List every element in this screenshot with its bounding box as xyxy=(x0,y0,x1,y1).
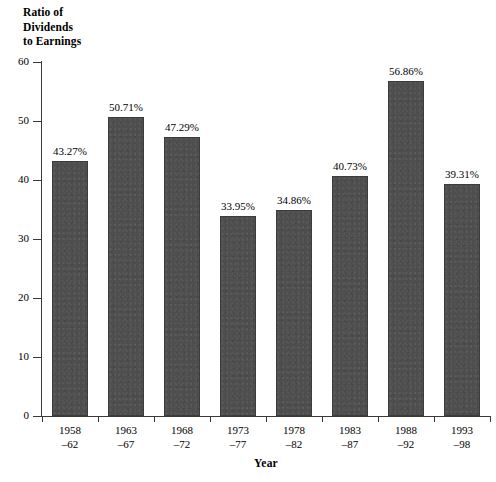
x-axis-tick xyxy=(378,417,379,422)
x-axis-category-line-2: –98 xyxy=(432,438,492,452)
bar-value-label: 34.86% xyxy=(264,195,324,206)
x-axis-category-line-1: 1963 xyxy=(96,424,156,438)
bar xyxy=(444,184,480,416)
bar xyxy=(276,210,312,416)
x-axis-category-line-1: 1988 xyxy=(376,424,436,438)
x-axis-category-line-1: 1968 xyxy=(152,424,212,438)
bar xyxy=(108,117,144,416)
x-axis-category-line-1: 1973 xyxy=(208,424,268,438)
bar-value-label: 39.31% xyxy=(432,169,492,180)
x-axis-tick xyxy=(434,417,435,422)
y-axis-tick xyxy=(33,180,41,181)
y-axis-tick-label: 20 xyxy=(18,292,29,303)
bar-value-label: 56.86% xyxy=(376,66,436,77)
x-axis-category-label: 1983–87 xyxy=(320,424,380,451)
x-axis-category-label: 1988–92 xyxy=(376,424,436,451)
x-axis-tick xyxy=(98,417,99,422)
y-axis-tick-label: 50 xyxy=(18,115,29,126)
x-axis-tick xyxy=(42,417,43,422)
x-axis-category-label: 1978–82 xyxy=(264,424,324,451)
y-axis-title-line-2: Dividends xyxy=(23,20,81,35)
x-axis-category-label: 1968–72 xyxy=(152,424,212,451)
bar xyxy=(52,161,88,416)
y-axis-tick xyxy=(33,298,41,299)
bar xyxy=(220,216,256,416)
x-axis-category-line-2: –77 xyxy=(208,438,268,452)
x-axis-tick xyxy=(490,417,491,422)
bar xyxy=(164,137,200,416)
y-axis-tick xyxy=(33,357,41,358)
y-axis-tick xyxy=(33,239,41,240)
x-axis-tick xyxy=(154,417,155,422)
x-axis-category-label: 1993–98 xyxy=(432,424,492,451)
x-axis-title: Year xyxy=(42,457,490,469)
x-axis-category-label: 1963–67 xyxy=(96,424,156,451)
y-axis-tick-label: 40 xyxy=(18,174,29,185)
bar-value-label: 33.95% xyxy=(208,201,268,212)
bar-value-label: 50.71% xyxy=(96,102,156,113)
x-axis-category-line-2: –82 xyxy=(264,438,324,452)
x-axis-category-line-1: 1958 xyxy=(40,424,100,438)
x-axis-tick xyxy=(322,417,323,422)
y-axis-title-line-3: to Earnings xyxy=(23,34,81,49)
bar xyxy=(388,81,424,416)
y-axis-tick-label: 30 xyxy=(18,233,29,244)
x-axis-category-line-2: –62 xyxy=(40,438,100,452)
x-axis-tick xyxy=(210,417,211,422)
y-axis-tick xyxy=(33,416,41,417)
x-axis-category-label: 1958–62 xyxy=(40,424,100,451)
y-axis-tick-label: 10 xyxy=(18,351,29,362)
bar-value-label: 40.73% xyxy=(320,161,380,172)
x-axis-category-line-2: –67 xyxy=(96,438,156,452)
x-axis-category-line-1: 1983 xyxy=(320,424,380,438)
bar xyxy=(332,176,368,416)
y-axis-tick-label: 0 xyxy=(24,410,30,421)
bar-chart: Ratio of Dividends to Earnings 010203040… xyxy=(0,0,496,482)
y-axis-title: Ratio of Dividends to Earnings xyxy=(23,5,81,49)
y-axis-title-line-1: Ratio of xyxy=(23,5,81,20)
y-axis-tick xyxy=(33,62,41,63)
x-axis-category-line-1: 1993 xyxy=(432,424,492,438)
bar-value-label: 47.29% xyxy=(152,122,212,133)
bar-value-label: 43.27% xyxy=(40,146,100,157)
x-axis-category-line-2: –87 xyxy=(320,438,380,452)
x-axis-category-line-1: 1978 xyxy=(264,424,324,438)
y-axis-tick-label: 60 xyxy=(18,56,29,67)
x-axis-category-line-2: –72 xyxy=(152,438,212,452)
x-axis-tick xyxy=(266,417,267,422)
y-axis-tick xyxy=(33,121,41,122)
x-axis-category-label: 1973–77 xyxy=(208,424,268,451)
x-axis-category-line-2: –92 xyxy=(376,438,436,452)
y-axis-line xyxy=(41,61,42,417)
